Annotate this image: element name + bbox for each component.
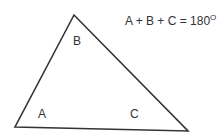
angle-label-a: A [38,107,46,121]
angle-label-c: C [130,107,139,121]
degree-superscript: O [210,13,216,22]
angle-label-b: B [73,34,81,48]
equation-text: A + B + C = 180 [125,14,210,28]
angle-sum-equation: A + B + C = 180O [125,13,216,28]
triangle-diagram: B A C A + B + C = 180O [0,0,221,137]
